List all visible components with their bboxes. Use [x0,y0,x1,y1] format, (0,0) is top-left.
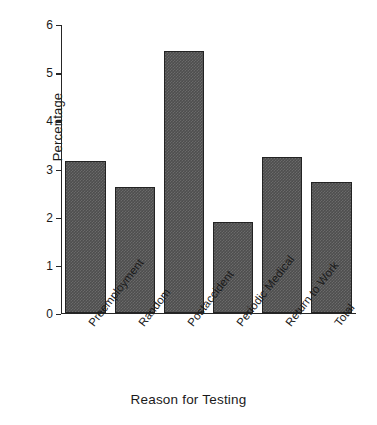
y-tick-label: 3 [46,163,53,177]
bar-postaccident [164,51,204,314]
bar-preemployment [65,161,105,313]
y-tick-mark [56,218,61,219]
y-tick-label: 0 [46,307,53,321]
x-axis-title: Reason for Testing [0,392,377,407]
y-tick-mark [56,25,61,26]
y-tick-mark [56,314,61,315]
y-tick-label: 4 [46,114,53,128]
y-tick-mark [56,121,61,122]
bar-periodic-medical [213,222,253,313]
y-tick-mark [56,266,61,267]
y-tick-label: 2 [46,211,53,225]
y-tick-label: 6 [46,18,53,32]
y-tick-label: 1 [46,259,53,273]
y-tick-label: 5 [46,66,53,80]
plot-area: 0123456 [61,25,356,314]
bar-chart-figure: Percentage 0123456 PreemploymentRandomPo… [0,0,377,425]
y-tick-mark [56,170,61,171]
y-axis-line [61,25,62,314]
y-tick-mark [56,73,61,74]
